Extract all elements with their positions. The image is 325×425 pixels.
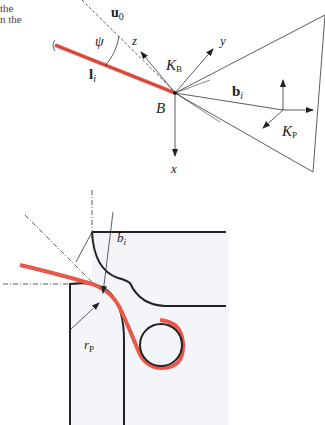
psi-angle-arc <box>105 36 119 66</box>
label-z: z <box>131 33 137 48</box>
label-li: li <box>89 66 96 84</box>
bottom-diagram: bi rP <box>3 190 229 425</box>
point-B <box>173 91 177 95</box>
kp-down-left-arrow <box>263 110 283 128</box>
leg-end-cap <box>53 40 55 51</box>
figure: u0 ψ z y x KB li bi B KP bi r <box>0 0 325 425</box>
panel-background <box>92 232 229 425</box>
diagonal-guide <box>25 215 100 290</box>
label-KP: KP <box>281 123 297 140</box>
platform-triangle <box>175 15 325 172</box>
label-u0: u0 <box>111 5 124 22</box>
label-y: y <box>218 33 226 48</box>
bi-vector-line <box>175 93 283 110</box>
label-psi: ψ <box>95 34 104 49</box>
label-bi: bi <box>232 83 243 101</box>
top-diagram: u0 ψ z y x KB li bi B KP <box>53 0 325 176</box>
label-B: B <box>156 100 165 116</box>
label-x: x <box>170 161 177 176</box>
label-KB: KB <box>165 57 182 74</box>
